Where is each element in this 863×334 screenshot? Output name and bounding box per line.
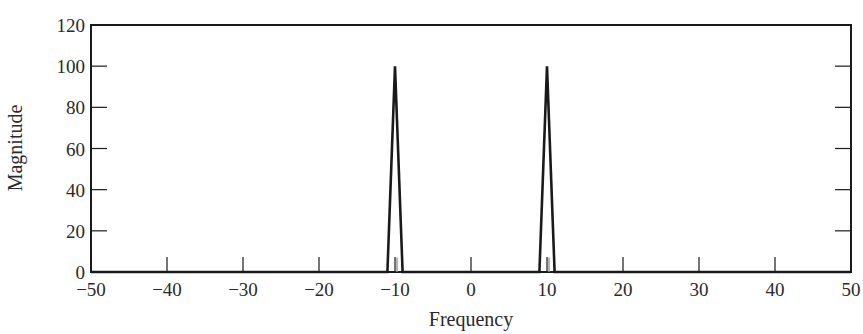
y-tick-label: 20	[66, 221, 85, 242]
y-tick-label: 100	[57, 56, 86, 77]
plot-frame	[91, 25, 851, 272]
x-tick-label: 0	[466, 279, 476, 300]
x-tick-label: −50	[76, 279, 106, 300]
x-tick-label: 30	[690, 279, 709, 300]
y-tick-label: 40	[66, 180, 85, 201]
x-axis-ticks: −50−40−30−20−1001020304050	[76, 257, 860, 300]
x-axis-title: Frequency	[429, 308, 513, 331]
x-tick-label: −30	[228, 279, 258, 300]
x-tick-label: 10	[538, 279, 557, 300]
x-tick-label: 50	[842, 279, 861, 300]
y-tick-label: 60	[66, 139, 85, 160]
spectrum-line	[91, 66, 851, 272]
y-axis-ticks: 020406080100120	[57, 15, 852, 283]
x-tick-label: 40	[766, 279, 785, 300]
x-tick-label: −10	[380, 279, 410, 300]
magnitude-spectrum-chart: 020406080100120 −50−40−30−20−10010203040…	[0, 0, 863, 334]
y-tick-label: 120	[57, 15, 86, 36]
data-series	[91, 66, 851, 272]
x-tick-label: −40	[152, 279, 182, 300]
y-axis-title: Magnitude	[4, 105, 27, 192]
plot-border	[91, 25, 851, 272]
x-tick-label: −20	[304, 279, 334, 300]
y-tick-label: 80	[66, 97, 85, 118]
x-tick-label: 20	[614, 279, 633, 300]
